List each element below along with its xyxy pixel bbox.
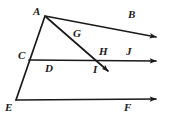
point-label-d: D [45, 63, 53, 74]
ray-a-b [45, 16, 156, 37]
point-label-a: A [33, 6, 40, 17]
point-label-e: E [5, 102, 12, 113]
figure-canvas [0, 0, 173, 120]
ray-a-i [46, 17, 108, 71]
ray-c-j [29, 60, 156, 61]
point-label-g: G [73, 28, 81, 39]
point-label-i: I [93, 64, 97, 75]
geometry-figure: A B C D E F G H I J [0, 0, 173, 120]
point-label-h: H [99, 46, 108, 57]
ray-e-f [16, 99, 156, 100]
point-label-c: C [18, 50, 25, 61]
point-label-j: J [126, 46, 132, 57]
point-label-f: F [124, 102, 131, 113]
point-label-b: B [128, 9, 135, 20]
